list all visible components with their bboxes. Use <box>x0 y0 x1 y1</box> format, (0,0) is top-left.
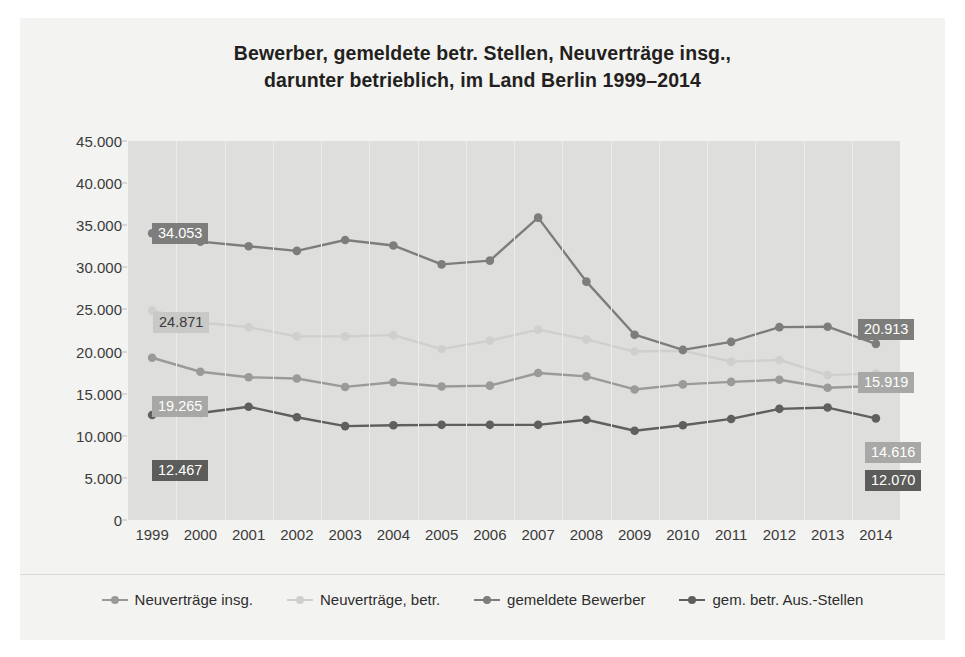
x-axis-label: 2004 <box>377 526 410 543</box>
data-point <box>630 330 639 339</box>
y-axis-label: 30.000 <box>26 259 122 276</box>
data-point <box>148 353 157 362</box>
vertical-gridline <box>321 141 322 520</box>
data-callout-right-neu-insg: 15.919 <box>858 372 914 393</box>
x-axis-label: 2006 <box>473 526 506 543</box>
legend-marker-icon <box>287 595 313 605</box>
vertical-gridline <box>611 141 612 520</box>
y-axis-tick <box>121 267 127 268</box>
data-point <box>196 367 205 376</box>
data-point <box>727 415 736 424</box>
y-axis-label: 5.000 <box>26 469 122 486</box>
chart-title-line-2: darunter betrieblich, im Land Berlin 199… <box>20 67 945 94</box>
data-point <box>437 345 446 354</box>
data-point <box>486 381 495 390</box>
data-point <box>341 383 350 392</box>
data-point <box>437 382 446 391</box>
data-point <box>679 346 688 355</box>
data-point <box>534 369 543 378</box>
data-point <box>823 383 832 392</box>
x-axis-label: 2009 <box>618 526 651 543</box>
vertical-gridline <box>804 141 805 520</box>
vertical-gridline <box>418 141 419 520</box>
y-axis: 05.00010.00015.00020.00025.00030.00035.0… <box>20 141 122 520</box>
y-axis-tick <box>121 435 127 436</box>
y-axis-label: 15.000 <box>26 385 122 402</box>
vertical-gridline <box>369 141 370 520</box>
data-point <box>775 405 784 414</box>
data-point <box>486 336 495 345</box>
legend-label: Neuverträge, betr. <box>320 591 440 608</box>
data-point <box>679 380 688 389</box>
data-point <box>630 426 639 435</box>
vertical-gridline <box>514 141 515 520</box>
data-callout-right-aus-stellen: 12.070 <box>865 470 921 491</box>
data-point <box>582 277 591 286</box>
y-axis-tick <box>121 225 127 226</box>
data-point <box>630 347 639 356</box>
vertical-gridline <box>273 141 274 520</box>
legend-item-2[interactable]: gemeldete Bewerber <box>474 591 645 608</box>
y-axis-tick <box>121 393 127 394</box>
x-axis-label: 2011 <box>715 526 747 543</box>
data-point <box>437 421 446 430</box>
y-axis-tick <box>121 141 127 142</box>
data-point <box>293 247 302 256</box>
data-callout-right-bewerber: 20.913 <box>858 319 914 340</box>
data-point <box>823 371 832 380</box>
legend-marker-icon <box>102 595 128 605</box>
legend-marker-icon <box>474 595 500 605</box>
legend-item-3[interactable]: gem. betr. Aus.-Stellen <box>679 591 863 608</box>
data-point <box>582 372 591 381</box>
x-axis-label: 2000 <box>184 526 217 543</box>
data-point <box>341 332 350 341</box>
x-axis-label: 2013 <box>811 526 844 543</box>
legend-label: gem. betr. Aus.-Stellen <box>712 591 863 608</box>
vertical-gridline <box>659 141 660 520</box>
legend-label: Neuverträge insg. <box>135 591 253 608</box>
data-point <box>244 402 253 411</box>
vertical-gridline <box>852 141 853 520</box>
x-axis-label: 2007 <box>521 526 554 543</box>
data-point <box>534 213 543 222</box>
x-axis-label: 2010 <box>666 526 699 543</box>
plot-area <box>128 141 900 520</box>
legend-item-1[interactable]: Neuverträge, betr. <box>287 591 440 608</box>
data-point <box>389 378 398 387</box>
y-axis-label: 10.000 <box>26 427 122 444</box>
y-axis-tick <box>121 183 127 184</box>
data-point <box>582 415 591 424</box>
data-callout-left-neu-betr: 24.871 <box>153 312 209 333</box>
data-point <box>727 357 736 366</box>
vertical-gridline <box>225 141 226 520</box>
vertical-gridline <box>707 141 708 520</box>
data-point <box>389 241 398 250</box>
data-point <box>244 373 253 382</box>
data-point <box>486 421 495 430</box>
data-point <box>534 325 543 334</box>
data-point <box>872 414 881 423</box>
data-point <box>872 340 881 349</box>
x-axis: 1999200020012002200320042005200620072008… <box>128 526 900 552</box>
data-point <box>630 385 639 394</box>
data-point <box>486 256 495 265</box>
chart-title: Bewerber, gemeldete betr. Stellen, Neuve… <box>20 40 945 94</box>
chart-page: Bewerber, gemeldete betr. Stellen, Neuve… <box>0 0 965 657</box>
legend-marker-icon <box>679 595 705 605</box>
data-callout-left-neu-insg: 19.265 <box>152 396 208 417</box>
y-axis-tick <box>121 309 127 310</box>
x-axis-label: 2002 <box>280 526 313 543</box>
data-point <box>727 378 736 387</box>
data-point <box>727 338 736 347</box>
data-point <box>293 374 302 383</box>
y-axis-label: 20.000 <box>26 343 122 360</box>
chart-title-line-1: Bewerber, gemeldete betr. Stellen, Neuve… <box>20 40 945 67</box>
data-point <box>437 260 446 269</box>
data-callout-left-aus-stellen: 12.467 <box>152 460 208 481</box>
data-point <box>775 356 784 365</box>
data-point <box>679 421 688 430</box>
legend-label: gemeldete Bewerber <box>507 591 645 608</box>
legend-item-0[interactable]: Neuverträge insg. <box>102 591 253 608</box>
x-axis-label: 2008 <box>570 526 603 543</box>
data-point <box>389 421 398 430</box>
